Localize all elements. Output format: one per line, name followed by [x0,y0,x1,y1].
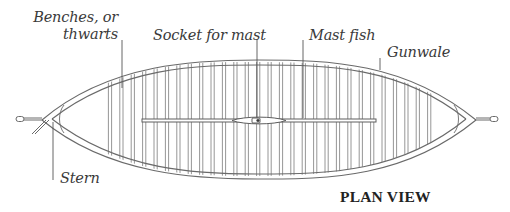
label-gunwale: Gunwale [387,44,450,61]
stern-post [16,117,49,135]
diagram-title: PLAN VIEW [340,188,431,206]
plan-view-diagram: Benches, or thwarts Socket for mast Mast… [0,0,510,212]
label-socket-for-mast: Socket for mast [153,27,266,44]
label-benches: Benches, or thwarts [28,9,118,43]
label-stern: Stern [60,170,100,187]
bow-post [476,117,498,122]
label-benches-line1: Benches, or [28,9,118,26]
label-benches-line2: thwarts [28,26,118,43]
label-mast-fish: Mast fish [309,27,375,44]
